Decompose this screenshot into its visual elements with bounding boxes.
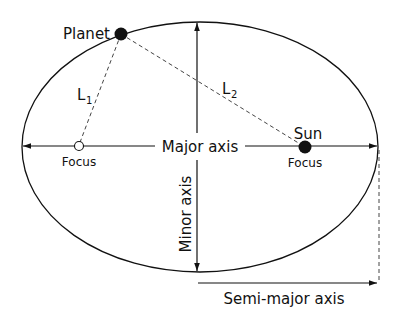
minor-axis-label: Minor axis — [177, 175, 195, 252]
focus-left-label: Focus — [62, 155, 96, 169]
planet-label: Planet — [63, 25, 110, 43]
l2-label: L 2 — [222, 80, 237, 100]
svg-text:2: 2 — [231, 89, 237, 100]
l2-dashed-line — [121, 34, 305, 147]
empty-focus-icon — [75, 142, 84, 151]
focus-right-label: Focus — [288, 156, 322, 170]
sun-label: Sun — [294, 125, 323, 143]
planet-icon — [115, 28, 128, 41]
major-axis-label: Major axis — [162, 138, 239, 156]
svg-text:L: L — [77, 86, 86, 104]
l1-label: L 1 — [77, 86, 92, 106]
orbit-diagram: Planet Sun Focus Focus Major axis Minor … — [0, 0, 416, 317]
svg-text:1: 1 — [86, 95, 92, 106]
svg-text:L: L — [222, 80, 231, 98]
semi-major-axis-label: Semi-major axis — [223, 290, 344, 308]
